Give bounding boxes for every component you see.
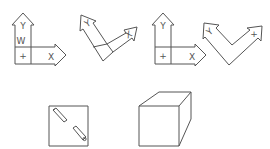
x-label: X xyxy=(48,52,54,62)
axis-figure-2: Y X xyxy=(80,15,137,61)
left-label: Y xyxy=(204,26,216,38)
axis-figure-1: Y W + X xyxy=(12,13,66,66)
pencil-icon xyxy=(53,108,67,122)
right-label: + xyxy=(250,29,258,39)
axis-figure-3: Y + X xyxy=(152,13,206,66)
pencil-icon xyxy=(73,126,86,141)
y-label: Y xyxy=(159,21,166,31)
y-label: Y xyxy=(19,21,26,31)
cube xyxy=(139,92,191,146)
x-label: X xyxy=(189,52,195,62)
diagram-canvas: Y W + X Y X Y + X Y + xyxy=(0,0,270,149)
origin-label: + xyxy=(19,51,27,61)
origin-label: + xyxy=(159,51,167,61)
w-label: W xyxy=(17,36,26,46)
pencil-square xyxy=(49,106,88,146)
axis-figure-4: Y + xyxy=(203,23,262,65)
